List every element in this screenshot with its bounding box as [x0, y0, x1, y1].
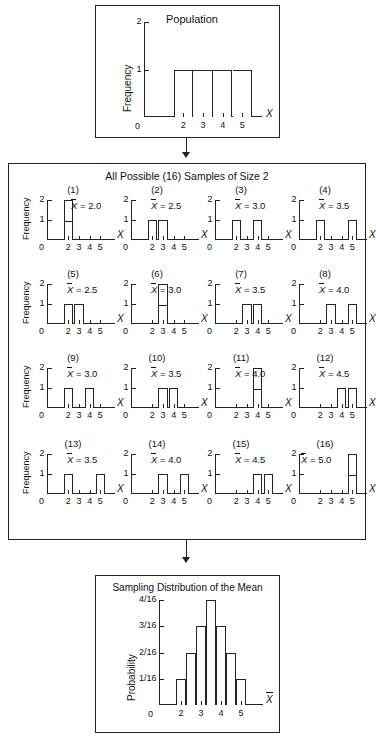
- sample-y-tick: 2: [47, 200, 52, 201]
- sample-x-tick-label: 5: [347, 243, 357, 252]
- population-x-tick-label: 5: [237, 121, 247, 130]
- sampling-bar: [206, 600, 216, 705]
- sampling-distribution-panel: Sampling Distribution of the Mean Probab…: [95, 575, 280, 733]
- sample-origin-label: 0: [291, 327, 296, 336]
- sample-y-tick: 2: [131, 200, 136, 201]
- sample-x-tick: [320, 320, 321, 324]
- sample-x-tick-label: 4: [253, 411, 263, 420]
- sample-x-tick: [90, 404, 91, 408]
- sample-x-tick-label: 4: [337, 497, 347, 506]
- sample-x-tick: [163, 236, 164, 240]
- sample-x-tick: [331, 320, 332, 324]
- population-bar: [174, 70, 194, 118]
- sample-x-tick-label: 3: [158, 411, 168, 420]
- sample-x-tick-label: 5: [179, 327, 189, 336]
- sample-y-tick-label: 2: [39, 363, 44, 372]
- sample-y-tick-label: 2: [39, 449, 44, 458]
- sample-x-tick-label: 3: [74, 243, 84, 252]
- sample-x-tick-label: 3: [74, 497, 84, 506]
- population-y-tick-label-2: 2: [136, 17, 141, 26]
- sample-x-tick-label: 5: [263, 411, 273, 420]
- sample-mean-label: X = 2.5: [67, 284, 97, 295]
- sample-x-tick: [352, 404, 353, 408]
- sample-x-tick-label: 4: [85, 497, 95, 506]
- sample-y-tick-label: 1: [207, 469, 212, 478]
- sample-y-tick-label: 2: [207, 279, 212, 288]
- sample-cell: (10)210X2345X = 3.5: [115, 352, 199, 430]
- sample-x-axis-label: X: [369, 313, 376, 324]
- sample-y-tick-label: 1: [123, 215, 128, 224]
- sample-y-tick-label: 2: [291, 363, 296, 372]
- sample-y-tick-label: 1: [123, 383, 128, 392]
- sample-x-axis: [47, 239, 115, 240]
- population-x-tick-label: 4: [218, 121, 228, 130]
- sample-x-tick-label: 5: [95, 411, 105, 420]
- sample-x-tick: [320, 236, 321, 240]
- sample-x-tick-label: 5: [179, 497, 189, 506]
- sample-x-tick-label: 5: [179, 243, 189, 252]
- sample-x-tick: [247, 404, 248, 408]
- population-origin-label: 0: [135, 122, 140, 131]
- sample-x-tick-label: 3: [326, 243, 336, 252]
- sample-x-tick-label: 2: [231, 411, 241, 420]
- sampling-y-tick: 2/16: [159, 653, 164, 654]
- sample-bar: [348, 454, 358, 494]
- sample-y-tick: 1: [299, 304, 304, 305]
- sample-x-tick-label: 5: [347, 497, 357, 506]
- sample-x-tick-label: 2: [231, 327, 241, 336]
- population-y-tick-label-1: 1: [136, 65, 141, 74]
- sample-y-tick: 1: [131, 220, 136, 221]
- sample-x-tick: [258, 236, 259, 240]
- population-panel: Population Frequency 2 1 0 X 2345: [95, 5, 280, 138]
- sample-y-tick: 1: [215, 388, 220, 389]
- population-x-tick: [183, 113, 184, 117]
- sample-y-tick-label: 1: [291, 469, 296, 478]
- sample-x-tick-label: 5: [95, 327, 105, 336]
- population-bar: [213, 70, 233, 118]
- sample-x-tick: [152, 320, 153, 324]
- sample-x-tick: [90, 320, 91, 324]
- sample-x-tick: [268, 490, 269, 494]
- sample-y-tick-label: 1: [39, 215, 44, 224]
- sample-mean-label: X = 3.0: [151, 284, 181, 295]
- sample-x-tick: [342, 236, 343, 240]
- sampling-x-tick: [201, 701, 202, 705]
- sample-y-tick-label: 2: [291, 449, 296, 458]
- sample-x-tick: [258, 490, 259, 494]
- sample-x-tick: [79, 236, 80, 240]
- sampling-x-tick-label: 5: [236, 709, 246, 718]
- sample-origin-label: 0: [291, 243, 296, 252]
- sample-x-tick: [163, 404, 164, 408]
- sample-y-tick: 1: [215, 220, 220, 221]
- sample-x-axis-label: X: [369, 229, 376, 240]
- sample-y-tick-label: 1: [291, 299, 296, 308]
- sample-y-tick-label: 1: [39, 469, 44, 478]
- sample-mean-label: X = 3.5: [151, 368, 181, 379]
- sample-x-tick-label: 3: [242, 243, 252, 252]
- sample-x-tick-label: 3: [74, 327, 84, 336]
- sample-x-tick-label: 5: [263, 243, 273, 252]
- sample-x-tick-label: 4: [169, 327, 179, 336]
- sample-x-tick-label: 3: [158, 497, 168, 506]
- sampling-x-tick-label: 4: [216, 709, 226, 718]
- sample-x-tick: [152, 404, 153, 408]
- sample-x-tick-label: 2: [147, 243, 157, 252]
- sample-x-tick: [163, 320, 164, 324]
- sample-x-tick-label: 4: [253, 327, 263, 336]
- sample-y-tick: 2: [299, 200, 304, 201]
- sample-x-tick: [79, 404, 80, 408]
- sample-x-tick-label: 4: [337, 243, 347, 252]
- sample-origin-label: 0: [123, 411, 128, 420]
- sample-cell: (14)210X2345X = 4.0: [115, 438, 199, 516]
- sample-y-tick-label: 2: [123, 449, 128, 458]
- sample-y-tick: 2: [47, 368, 52, 369]
- sample-cell: (1)210X2345X = 2.0: [31, 184, 115, 262]
- sampling-bar: [186, 653, 196, 706]
- sample-x-tick: [174, 490, 175, 494]
- sampling-bar: [226, 653, 236, 706]
- sample-y-tick-label: 1: [123, 299, 128, 308]
- connector-arrow-bottom: [182, 557, 190, 563]
- sample-x-tick-label: 3: [326, 327, 336, 336]
- sample-x-tick: [258, 320, 259, 324]
- sample-x-tick-label: 4: [85, 411, 95, 420]
